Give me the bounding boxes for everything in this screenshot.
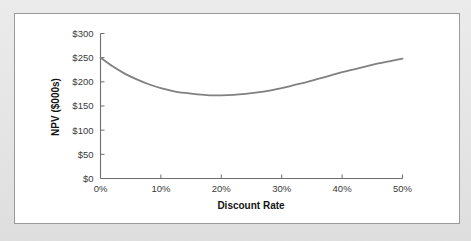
figure-root: $0$50$100$150$200$250$300 0%10%20%30%40%… bbox=[0, 0, 471, 241]
y-axis-tick-label: $0 bbox=[83, 173, 94, 184]
x-axis-tick-label: 50% bbox=[393, 183, 413, 194]
y-axis-tick-marks bbox=[101, 34, 105, 155]
y-axis-title: NPV ($000s) bbox=[50, 78, 61, 136]
x-axis-title: Discount Rate bbox=[217, 200, 285, 211]
npv-curve-line bbox=[101, 58, 403, 96]
y-axis-tick-labels: $0$50$100$150$200$250$300 bbox=[72, 28, 93, 184]
y-axis-tick-label: $200 bbox=[72, 76, 93, 87]
chart-plot-area: $0$50$100$150$200$250$300 0%10%20%30%40%… bbox=[0, 0, 471, 241]
x-axis-tick-label: 20% bbox=[212, 183, 232, 194]
x-axis-tick-label: 40% bbox=[333, 183, 353, 194]
y-axis-tick-label: $250 bbox=[72, 52, 93, 63]
y-axis-tick-label: $300 bbox=[72, 28, 93, 39]
x-axis-tick-label: 0% bbox=[94, 183, 108, 194]
y-axis-tick-label: $150 bbox=[72, 100, 93, 111]
x-axis-tick-marks bbox=[161, 175, 403, 179]
x-axis-tick-labels: 0%10%20%30%40%50% bbox=[94, 183, 413, 194]
x-axis-tick-label: 30% bbox=[272, 183, 292, 194]
x-axis-tick-label: 10% bbox=[151, 183, 171, 194]
y-axis-tick-label: $50 bbox=[78, 149, 94, 160]
y-axis-tick-label: $100 bbox=[72, 125, 93, 136]
